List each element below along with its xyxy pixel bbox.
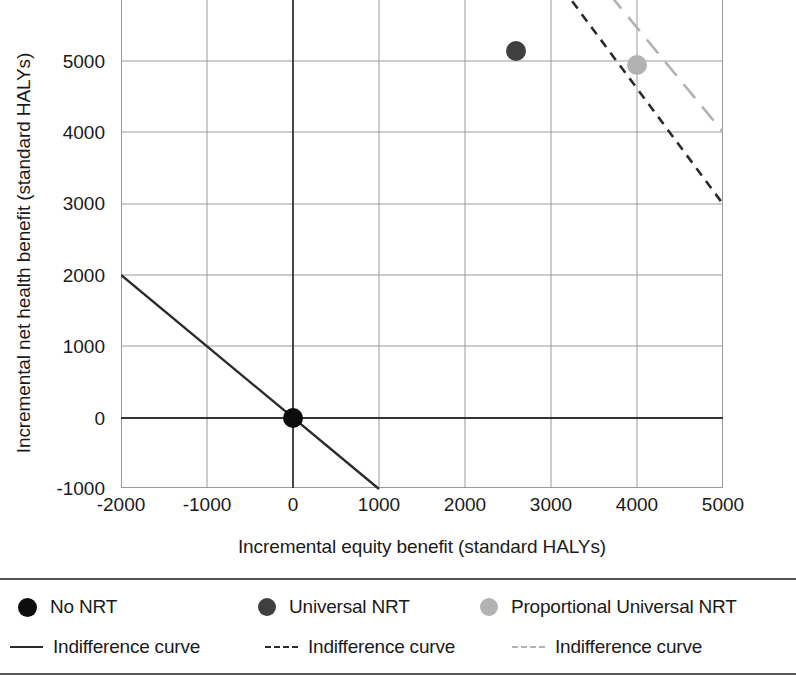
legend-item-indifference-curve-solid[interactable]: Indifference curve [10,630,200,664]
legend-line-row: Indifference curve Indifference curve In… [0,630,796,664]
legend-item-indifference-curve-longdash[interactable]: Indifference curve [512,630,702,664]
y-tick-label: 5000 [0,52,105,71]
y-tick-label: 4000 [0,123,105,142]
indifference-curve-longdash [573,0,723,132]
filled-circle-marker-icon [480,598,498,616]
x-tick-label: 5000 [668,495,778,514]
dashed-line-swatch-icon [265,646,298,648]
y-tick-label: 3000 [0,194,105,213]
indifference-curve-solid [121,275,379,489]
data-point-universal-nrt[interactable] [506,41,526,61]
filled-circle-marker-icon [18,598,37,617]
chart-legend: No NRT Universal NRT Proportional Univer… [0,578,796,675]
legend-item-proportional-universal-nrt[interactable]: Proportional Universal NRT [480,590,737,624]
indifference-curve-dashed [534,0,723,204]
legend-item-indifference-curve-dashed[interactable]: Indifference curve [265,630,455,664]
x-axis-title: Incremental equity benefit (standard HAL… [121,536,723,558]
solid-line-swatch-icon [10,646,43,648]
plot-area [121,0,723,488]
long-dashed-line-swatch-icon [512,646,545,648]
data-point-proportional-universal-nrt[interactable] [627,55,647,75]
legend-label: No NRT [50,596,117,618]
chart-figure: Incremental net health benefit (standard… [0,0,796,675]
y-axis-title: Incremental net health benefit (standard… [9,3,39,503]
legend-label: Proportional Universal NRT [511,596,737,618]
legend-marker-row: No NRT Universal NRT Proportional Univer… [0,590,796,624]
filled-circle-marker-icon [258,598,276,616]
data-point-no-nrt[interactable] [283,408,303,428]
legend-label: Indifference curve [555,636,702,658]
legend-label: Indifference curve [53,636,200,658]
y-tick-label: 0 [0,409,105,428]
legend-item-no-nrt[interactable]: No NRT [18,590,117,624]
legend-label: Universal NRT [289,596,410,618]
legend-item-universal-nrt[interactable]: Universal NRT [258,590,410,624]
legend-label: Indifference curve [308,636,455,658]
y-tick-label: 2000 [0,266,105,285]
y-tick-label: 1000 [0,337,105,356]
